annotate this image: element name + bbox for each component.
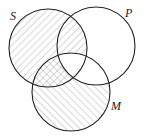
- venn-diagram: S P M: [0, 0, 146, 138]
- label-m: M: [110, 99, 122, 113]
- label-s: S: [10, 9, 16, 23]
- label-p: P: [124, 6, 133, 20]
